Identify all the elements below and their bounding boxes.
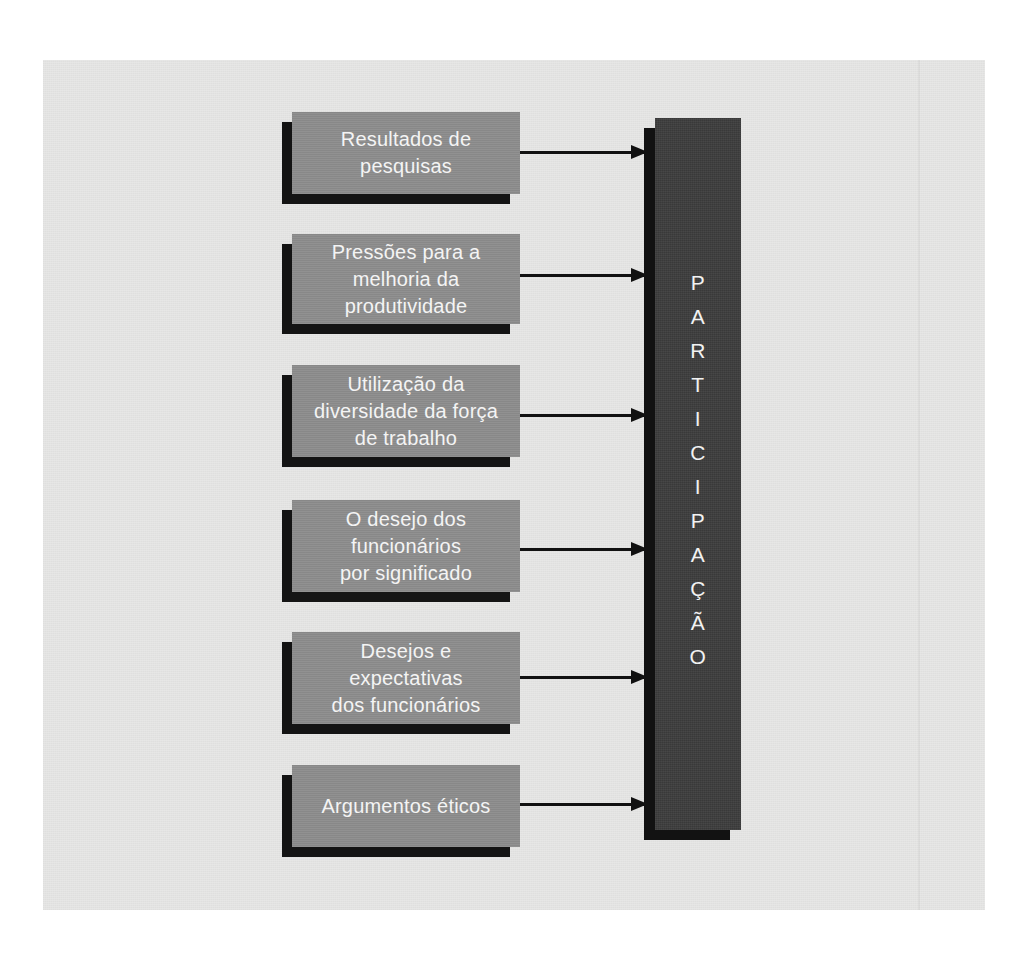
node-label: Desejos e expectativas dos funcionários bbox=[332, 638, 481, 719]
target-letter: O bbox=[690, 640, 707, 674]
node-argumentos-eticos[interactable]: Argumentos éticos bbox=[292, 765, 520, 847]
target-letter: A bbox=[691, 300, 706, 334]
node-body: Utilização da diversidade da força de tr… bbox=[292, 365, 520, 457]
node-body: Resultados de pesquisas bbox=[292, 112, 520, 194]
node-label: Pressões para a melhoria da produtividad… bbox=[332, 239, 481, 320]
target-body: P A R T I C I P A Ç Ã O bbox=[655, 118, 741, 830]
arrow-line bbox=[520, 274, 647, 277]
arrow-node-3-to-target bbox=[520, 414, 647, 417]
node-label: O desejo dos funcionários por significad… bbox=[340, 506, 472, 587]
target-letter: C bbox=[690, 436, 706, 470]
target-letter: Ã bbox=[691, 606, 706, 640]
target-participacao[interactable]: P A R T I C I P A Ç Ã O bbox=[655, 118, 741, 830]
arrow-node-2-to-target bbox=[520, 274, 647, 277]
arrow-line bbox=[520, 676, 647, 679]
node-body: Desejos e expectativas dos funcionários bbox=[292, 632, 520, 724]
arrow-line bbox=[520, 151, 647, 154]
target-letter: P bbox=[691, 266, 706, 300]
arrow-line bbox=[520, 414, 647, 417]
node-body: O desejo dos funcionários por significad… bbox=[292, 500, 520, 592]
target-letter: R bbox=[690, 334, 706, 368]
target-letter: P bbox=[691, 504, 706, 538]
arrow-node-6-to-target bbox=[520, 803, 647, 806]
node-body: Pressões para a melhoria da produtividad… bbox=[292, 234, 520, 324]
arrow-node-1-to-target bbox=[520, 151, 647, 154]
target-letter: T bbox=[691, 368, 704, 402]
node-body: Argumentos éticos bbox=[292, 765, 520, 847]
target-letter: Ç bbox=[690, 572, 706, 606]
diagram-page: Resultados de pesquisas Pressões para a … bbox=[0, 0, 1028, 960]
node-pressoes-produtividade[interactable]: Pressões para a melhoria da produtividad… bbox=[292, 234, 520, 324]
node-desejos-expectativas[interactable]: Desejos e expectativas dos funcionários bbox=[292, 632, 520, 724]
node-label: Resultados de pesquisas bbox=[341, 126, 471, 180]
node-diversidade-forca-trabalho[interactable]: Utilização da diversidade da força de tr… bbox=[292, 365, 520, 457]
target-letter: A bbox=[691, 538, 706, 572]
node-label: Utilização da diversidade da força de tr… bbox=[314, 371, 498, 452]
arrow-node-5-to-target bbox=[520, 676, 647, 679]
target-letter: I bbox=[695, 470, 701, 504]
target-vertical-label: P A R T I C I P A Ç Ã O bbox=[690, 266, 707, 674]
node-resultados-de-pesquisas[interactable]: Resultados de pesquisas bbox=[292, 112, 520, 194]
node-label: Argumentos éticos bbox=[321, 793, 490, 820]
panel-seam bbox=[918, 60, 920, 910]
node-desejo-significado[interactable]: O desejo dos funcionários por significad… bbox=[292, 500, 520, 592]
target-letter: I bbox=[695, 402, 701, 436]
arrow-node-4-to-target bbox=[520, 548, 647, 551]
arrow-line bbox=[520, 548, 647, 551]
arrow-line bbox=[520, 803, 647, 806]
